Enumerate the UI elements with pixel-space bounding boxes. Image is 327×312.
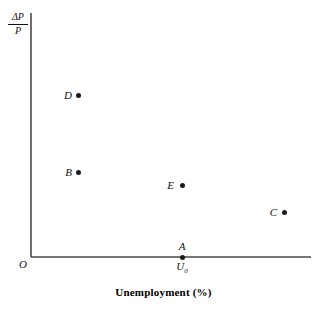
data-point-label-a: A xyxy=(179,241,186,252)
data-point-b xyxy=(76,170,81,175)
u0-base: U xyxy=(176,260,184,272)
data-point-e xyxy=(180,183,185,188)
x-axis-title: Unemployment (%) xyxy=(0,286,327,298)
origin-label: O xyxy=(19,259,27,270)
data-point-label-e: E xyxy=(167,180,174,191)
data-point-label-c: C xyxy=(270,207,277,218)
data-point-a xyxy=(180,255,185,260)
data-point-label-d: D xyxy=(64,90,72,101)
data-point-d xyxy=(76,93,81,98)
phillips-curve-scatter-figure: ΔP P O D B E C A U0 Unemployment (%) xyxy=(0,0,327,312)
y-axis-label-denominator: P xyxy=(8,25,28,37)
data-point-c xyxy=(282,210,287,215)
plot-area: ΔP P O D B E C A U0 Unemployment (%) xyxy=(0,0,327,312)
x-axis-tick-label-u0: U0 xyxy=(176,261,187,275)
data-point-label-b: B xyxy=(65,167,72,178)
y-axis-label-numerator: ΔP xyxy=(8,12,28,25)
u0-subscript: 0 xyxy=(184,267,188,275)
axes-lines xyxy=(0,0,327,312)
y-axis-label: ΔP P xyxy=(8,12,28,36)
